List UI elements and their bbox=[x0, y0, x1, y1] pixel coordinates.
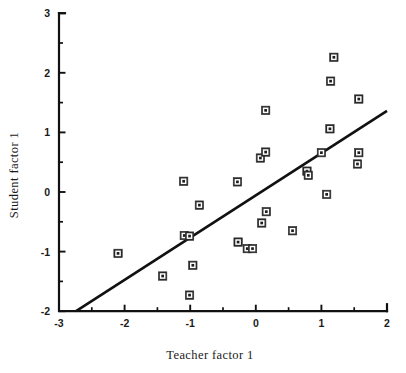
data-point bbox=[234, 238, 242, 246]
data-point bbox=[158, 272, 166, 280]
x-tick-label: 1 bbox=[318, 317, 324, 329]
marker-center-dot bbox=[357, 98, 360, 101]
data-point bbox=[326, 77, 334, 85]
marker-center-dot bbox=[264, 109, 267, 112]
marker-center-dot bbox=[329, 80, 332, 83]
marker-center-dot bbox=[325, 193, 328, 196]
marker-center-dot bbox=[329, 127, 332, 130]
data-point bbox=[195, 201, 203, 209]
x-tick-label: -2 bbox=[120, 317, 129, 329]
regression-fit-line bbox=[76, 111, 387, 311]
marker-center-dot bbox=[264, 151, 267, 154]
data-point bbox=[233, 178, 241, 186]
data-point bbox=[185, 291, 193, 299]
marker-center-dot bbox=[161, 275, 164, 278]
x-tick-label: -3 bbox=[54, 317, 63, 329]
marker-center-dot bbox=[188, 294, 191, 297]
data-point bbox=[258, 219, 266, 227]
marker-center-dot bbox=[182, 180, 185, 183]
marker-center-dot bbox=[291, 229, 294, 232]
marker-center-dot bbox=[307, 174, 310, 177]
marker-center-dot bbox=[320, 151, 323, 154]
data-point bbox=[326, 125, 334, 133]
data-point bbox=[189, 261, 197, 269]
marker-center-dot bbox=[237, 241, 240, 244]
y-tick-label: 2 bbox=[44, 67, 50, 79]
scatter-plot-canvas: -3-2-1012-2-10123 bbox=[0, 0, 406, 373]
data-point bbox=[179, 177, 187, 185]
y-tick-label: 0 bbox=[44, 186, 50, 198]
marker-center-dot bbox=[188, 235, 191, 238]
data-point bbox=[248, 244, 256, 252]
y-tick-label: -1 bbox=[41, 246, 50, 258]
y-tick-label: 3 bbox=[44, 7, 50, 19]
marker-center-dot bbox=[117, 252, 120, 255]
chart-figure: -3-2-1012-2-10123 Teacher factor 1 Stude… bbox=[0, 0, 406, 373]
data-point bbox=[262, 207, 270, 215]
data-point bbox=[355, 95, 363, 103]
marker-center-dot bbox=[236, 181, 239, 184]
marker-center-dot bbox=[198, 204, 201, 207]
data-point bbox=[322, 190, 330, 198]
regression-line bbox=[76, 111, 387, 311]
data-point bbox=[114, 249, 122, 257]
data-point bbox=[304, 171, 312, 179]
y-tick-label: 1 bbox=[44, 126, 50, 138]
marker-center-dot bbox=[251, 247, 254, 250]
marker-center-dot bbox=[265, 210, 268, 213]
data-point bbox=[355, 148, 363, 156]
data-point bbox=[288, 227, 296, 235]
data-point bbox=[185, 232, 193, 240]
data-point bbox=[317, 148, 325, 156]
marker-center-dot bbox=[333, 56, 336, 59]
data-point bbox=[261, 106, 269, 114]
marker-center-dot bbox=[357, 151, 360, 154]
data-point bbox=[330, 53, 338, 61]
y-tick-label: -2 bbox=[41, 305, 50, 317]
x-tick-label: -1 bbox=[186, 317, 195, 329]
data-point bbox=[353, 160, 361, 168]
marker-center-dot bbox=[356, 163, 359, 166]
x-tick-label: 2 bbox=[384, 317, 390, 329]
data-point bbox=[261, 148, 269, 156]
marker-center-dot bbox=[191, 264, 194, 267]
marker-center-dot bbox=[260, 222, 263, 225]
marker-center-dot bbox=[259, 157, 262, 160]
x-tick-label: 0 bbox=[253, 317, 259, 329]
